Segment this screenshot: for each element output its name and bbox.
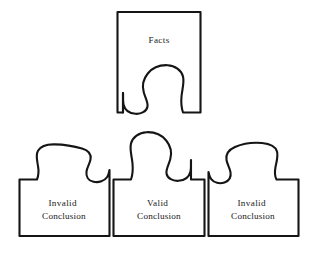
invalid-conclusion-left-label-line-2: Conclusion: [42, 211, 86, 221]
facts-piece[interactable]: Facts: [118, 12, 201, 114]
valid-conclusion-piece[interactable]: Valid Conclusion: [114, 132, 205, 236]
valid-conclusion-label-line-1: Valid: [147, 198, 168, 208]
facts-piece-label: Facts: [148, 35, 169, 45]
facts-piece-outline: [118, 12, 201, 114]
invalid-conclusion-left-label-line-1: Invalid: [48, 198, 77, 208]
valid-conclusion-label-line-2: Conclusion: [137, 211, 181, 221]
invalid-conclusion-right-piece[interactable]: Invalid Conclusion: [209, 143, 299, 236]
invalid-conclusion-left-outline: [20, 144, 110, 236]
invalid-conclusion-right-label-line-2: Conclusion: [231, 211, 275, 221]
invalid-conclusion-right-outline: [209, 143, 299, 236]
puzzle-diagram-svg: Facts Invalid Conclusion Valid Conclusio…: [0, 0, 314, 253]
invalid-conclusion-left-piece[interactable]: Invalid Conclusion: [20, 144, 110, 236]
facts-label-line-1: Facts: [148, 35, 169, 45]
invalid-conclusion-right-label-line-1: Invalid: [237, 198, 266, 208]
puzzle-diagram: Facts Invalid Conclusion Valid Conclusio…: [0, 0, 314, 253]
